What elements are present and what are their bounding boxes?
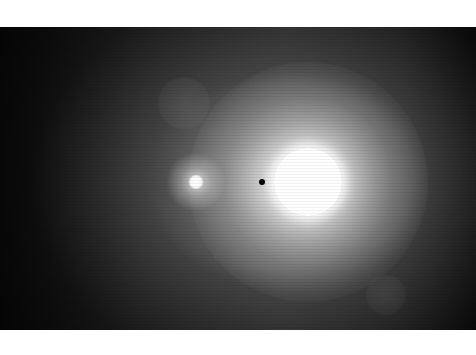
scanline-noise (0, 27, 476, 330)
astronomical-image-frame (0, 27, 476, 330)
